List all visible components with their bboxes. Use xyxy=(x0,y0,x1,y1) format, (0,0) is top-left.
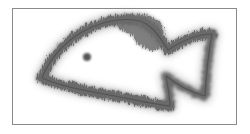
fish-drawing xyxy=(0,0,250,134)
fish-eye xyxy=(83,53,91,61)
fish-illustration xyxy=(0,0,250,134)
